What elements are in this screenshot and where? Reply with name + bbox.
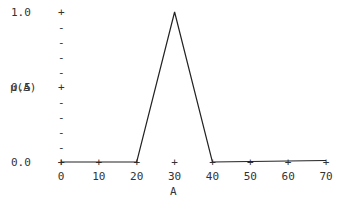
y-tick-label: 0.0	[11, 156, 31, 169]
x-tick-label: 30	[168, 170, 181, 183]
x-major-tick: +	[285, 156, 292, 169]
x-axis-label: A	[170, 185, 177, 198]
x-major-tick: +	[171, 156, 178, 169]
y-minor-tick: -	[58, 51, 65, 64]
y-minor-tick: -	[58, 141, 65, 154]
x-axis-ticks: +0+10+20+30+40+50+60+70	[58, 156, 333, 183]
membership-chart: +0.0----+0.5----+1.0 +0+10+20+30+40+50+6…	[0, 0, 346, 206]
x-major-tick: +	[247, 156, 254, 169]
x-tick-label: 70	[319, 170, 332, 183]
y-major-tick: +	[58, 6, 65, 19]
x-tick-label: 40	[206, 170, 219, 183]
x-tick-label: 60	[282, 170, 295, 183]
x-tick-label: 0	[58, 170, 65, 183]
y-minor-tick: -	[58, 66, 65, 79]
y-minor-tick: -	[58, 21, 65, 34]
y-minor-tick: -	[58, 111, 65, 124]
y-major-tick: +	[58, 81, 65, 94]
membership-curve	[61, 12, 326, 162]
x-tick-label: 20	[130, 170, 143, 183]
y-minor-tick: -	[58, 36, 65, 49]
y-tick-label: 1.0	[11, 6, 31, 19]
y-axis-label: μ(A)	[10, 81, 37, 94]
y-minor-tick: -	[58, 96, 65, 109]
y-minor-tick: -	[58, 126, 65, 139]
x-major-tick: +	[323, 156, 330, 169]
x-tick-label: 10	[92, 170, 105, 183]
x-tick-label: 50	[244, 170, 257, 183]
